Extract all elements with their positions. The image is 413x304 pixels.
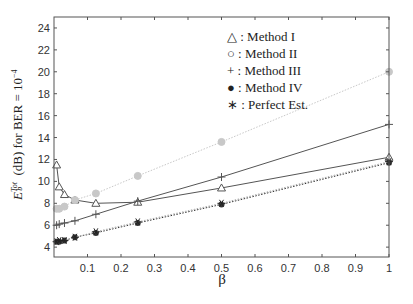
legend-item: ○ : Method II: [227, 46, 297, 61]
legend-item: ● : Method IV: [227, 80, 303, 95]
plot-area: [53, 68, 393, 245]
y-tick-label: 8: [44, 197, 50, 209]
x-tick-label: 0.3: [147, 262, 162, 274]
y-tick-label: 16: [38, 110, 50, 122]
x-tick-label: 0.1: [80, 262, 95, 274]
x-tick-label: 0.9: [348, 262, 363, 274]
axes-frame: [54, 17, 389, 257]
x-tick-label: 0.4: [180, 262, 195, 274]
x-tick-label: 0.2: [113, 262, 128, 274]
x-tick-label: 0.6: [247, 262, 262, 274]
chart: 0.10.20.30.40.50.60.70.80.91468101214161…: [0, 0, 413, 304]
y-axis-label: ETot b (dB) for BER = 10−4: [5, 69, 25, 201]
series-perfect-est-: [53, 158, 393, 245]
y-tick-label: 6: [44, 219, 50, 231]
series-method-i: [53, 153, 393, 206]
series-method-iv: [54, 160, 392, 245]
axes: 0.10.20.30.40.50.60.70.80.91468101214161…: [38, 17, 392, 274]
y-tick-label: 24: [38, 22, 50, 34]
y-tick-label: 18: [38, 88, 50, 100]
y-tick-label: 12: [38, 153, 50, 165]
x-axis-label: β: [218, 271, 226, 287]
legend-item: + : Method III: [227, 63, 301, 78]
legend-item: ∗ : Perfect Est.: [227, 97, 308, 112]
x-tick-label: 0.7: [281, 262, 296, 274]
y-tick-label: 14: [38, 132, 50, 144]
y-tick-label: 22: [38, 44, 50, 56]
series-method-iii: [53, 120, 393, 229]
legend-item: △ : Method I: [227, 29, 295, 44]
ylabel-fraction-num: E: [10, 192, 25, 201]
x-tick-label: 0.8: [314, 262, 329, 274]
y-tick-label: 4: [44, 241, 50, 253]
y-tick-label: 20: [38, 66, 50, 78]
y-tick-label: 10: [38, 175, 50, 187]
x-tick-label: 1: [386, 262, 392, 274]
legend: △ : Method I○ : Method II+ : Method III●…: [227, 29, 308, 112]
svg-text:ETot b (dB) for BE: ETot b (dB) for BER = 10−4: [5, 69, 25, 201]
